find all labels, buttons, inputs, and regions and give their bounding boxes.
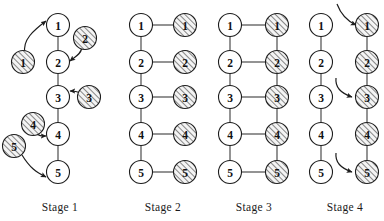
stage-4-left-node-2-label: 2 <box>318 57 324 69</box>
stage-2-left-node-4[interactable]: 4 <box>130 123 153 146</box>
stage-4-right-node-1-label: 1 <box>364 20 370 32</box>
stage-3-left-node-4[interactable]: 4 <box>219 123 242 146</box>
stage-1-node-1-label: 1 <box>55 20 61 32</box>
stage-2-right-node-3[interactable]: 3 <box>174 86 197 109</box>
stage-1-node-5[interactable]: 5 <box>47 161 70 184</box>
stage-3-right-node-5[interactable]: 5 <box>266 161 289 184</box>
stage-1-node-3-label: 3 <box>55 92 61 104</box>
stage-1-loose-node-4-label: 4 <box>30 119 36 131</box>
stage-1-node-3[interactable]: 3 <box>47 86 70 109</box>
stage-4-left-node-3[interactable]: 3 <box>310 86 333 109</box>
stage-3-left-node-1-label: 1 <box>227 20 233 32</box>
stage-3-right-node-1-label: 1 <box>274 20 280 32</box>
stage-3-left-node-2-label: 2 <box>227 57 233 69</box>
stage-1-loose-node-5-label: 5 <box>11 141 17 153</box>
stage-3-right-node-4[interactable]: 4 <box>266 123 289 146</box>
stage-2-right-node-5-label: 5 <box>182 167 188 179</box>
stage-4-left-node-4[interactable]: 4 <box>310 123 333 146</box>
stage-3-right-node-3-label: 3 <box>274 92 280 104</box>
stage-1-loose-node-2-label: 2 <box>82 33 88 45</box>
stage-2-right-node-2-label: 2 <box>182 57 188 69</box>
stage-2-right-node-2[interactable]: 2 <box>174 51 197 74</box>
stage-3-right-node-3[interactable]: 3 <box>266 86 289 109</box>
stage-1-node-2[interactable]: 2 <box>47 51 70 74</box>
stage-2-right-node-1-label: 1 <box>182 20 188 32</box>
stage-4-right-node-2[interactable]: 2 <box>356 51 379 74</box>
stage-1-loose-node-2[interactable]: 2 <box>74 27 97 50</box>
stage-4-right-node-2-label: 2 <box>364 57 370 69</box>
stage-2-left-node-1-label: 1 <box>138 20 144 32</box>
stage-4-left-node-1[interactable]: 1 <box>310 14 333 37</box>
stage-3-right-node-1[interactable]: 1 <box>266 14 289 37</box>
stage-3-right-node-5-label: 5 <box>274 167 280 179</box>
stage-3-right-node-4-label: 4 <box>274 129 280 141</box>
stage-2-left-node-2-label: 2 <box>138 57 144 69</box>
stage-1-node-4[interactable]: 4 <box>47 123 70 146</box>
stage-4-right-node-4-label: 4 <box>364 129 370 141</box>
stage-4-right-node-3[interactable]: 3 <box>356 86 379 109</box>
stage-2-left-node-4-label: 4 <box>138 129 144 141</box>
stage-4-caption: Stage 4 <box>327 201 363 214</box>
stage-4-right-node-1[interactable]: 1 <box>356 14 379 37</box>
stage-3-left-node-3-label: 3 <box>227 92 233 104</box>
stage-1-node-4-label: 4 <box>55 129 61 141</box>
stage-1-loose-node-1-label: 1 <box>20 57 26 69</box>
stage-4-right-node-4[interactable]: 4 <box>356 123 379 146</box>
stage-2-left-node-3[interactable]: 3 <box>130 86 153 109</box>
stage-3-left-node-2[interactable]: 2 <box>219 51 242 74</box>
stage-2-right-node-3-label: 3 <box>182 92 188 104</box>
stage-2-left-node-3-label: 3 <box>138 92 144 104</box>
stage-1-loose-node-4[interactable]: 4 <box>22 113 45 136</box>
stage-2-right-node-5[interactable]: 5 <box>174 161 197 184</box>
stage-2-left-node-1[interactable]: 1 <box>130 14 153 37</box>
stage-1-loose-node-3-label: 3 <box>86 92 92 104</box>
stage-3-right-node-2-label: 2 <box>274 57 280 69</box>
stage-2-caption: Stage 2 <box>145 201 181 214</box>
stage-3-left-node-3[interactable]: 3 <box>219 86 242 109</box>
stage-1-loose-node-3[interactable]: 3 <box>78 86 101 109</box>
stage-4-left-node-5-label: 5 <box>318 167 324 179</box>
stage-3-caption: Stage 3 <box>236 201 272 214</box>
stage-1-node-5-label: 5 <box>55 167 61 179</box>
stage-1-node-2-label: 2 <box>55 57 61 69</box>
stage-4-right-node-5[interactable]: 5 <box>356 161 379 184</box>
stage-2-left-node-5[interactable]: 5 <box>130 161 153 184</box>
stage-4-left-node-2[interactable]: 2 <box>310 51 333 74</box>
stage-4-right-node-5-label: 5 <box>364 167 370 179</box>
stage-4-left-node-3-label: 3 <box>318 92 324 104</box>
stage-1-caption: Stage 1 <box>42 201 78 214</box>
stage-3-left-node-4-label: 4 <box>227 129 233 141</box>
stage-3-left-node-5[interactable]: 5 <box>219 161 242 184</box>
stage-1-node-1[interactable]: 1 <box>47 14 70 37</box>
stage-2-left-node-5-label: 5 <box>138 167 144 179</box>
stage-2-right-node-4-label: 4 <box>182 129 188 141</box>
stage-4-left-node-4-label: 4 <box>318 129 324 141</box>
stage-1-loose-node-1[interactable]: 1 <box>12 51 35 74</box>
stage-3-left-node-1[interactable]: 1 <box>219 14 242 37</box>
stage-4-right-node-3-label: 3 <box>364 92 370 104</box>
stage-4-left-node-1-label: 1 <box>318 20 324 32</box>
stage-2-left-node-2[interactable]: 2 <box>130 51 153 74</box>
stage-3-left-node-5-label: 5 <box>227 167 233 179</box>
stage-2-right-node-1[interactable]: 1 <box>174 14 197 37</box>
stage-1-loose-node-5[interactable]: 5 <box>3 135 26 158</box>
stage-2-right-node-4[interactable]: 4 <box>174 123 197 146</box>
stage-3-right-node-2[interactable]: 2 <box>266 51 289 74</box>
stage-4-left-node-5[interactable]: 5 <box>310 161 333 184</box>
stage-diagram-figure: 1234512345Stage 11122334455Stage 2112233… <box>0 0 384 221</box>
